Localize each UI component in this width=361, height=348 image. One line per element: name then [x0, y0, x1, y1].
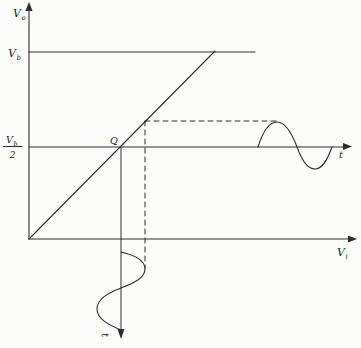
saturation-level-label: V b [8, 47, 22, 62]
x-axis-label-sub: i [346, 253, 348, 261]
x-axis [29, 235, 357, 242]
transfer-characteristic-figure: V o V b V b 2 Q V i t t [0, 0, 361, 348]
q-point-vertical-line [118, 147, 125, 339]
y-axis [25, 2, 32, 239]
input-time-axis-label: t [100, 332, 112, 339]
y-axis-arrow-icon [25, 2, 32, 11]
y-axis-label-sub: o [22, 14, 26, 22]
mid-level-time-axis [29, 143, 352, 150]
q-point-label: Q [110, 135, 118, 146]
fraction-denominator: 2 [9, 149, 16, 160]
y-axis-label: V o [13, 7, 26, 22]
output-waveform [258, 122, 332, 169]
output-time-axis-label: t [339, 149, 344, 160]
t-axis-arrow-icon [343, 143, 352, 150]
x-axis-label: V i [337, 246, 348, 261]
figure-canvas: V o V b V b 2 Q V i t t [0, 0, 361, 348]
mid-level-fraction-label: V b 2 [4, 134, 23, 160]
transfer-curve [29, 51, 215, 239]
saturation-label-sub: b [17, 54, 22, 62]
x-axis-arrow-icon [348, 235, 357, 242]
